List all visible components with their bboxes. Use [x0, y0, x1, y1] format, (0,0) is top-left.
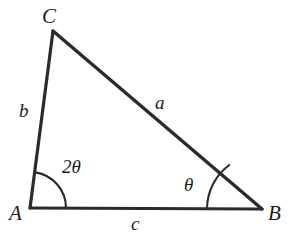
angle-arc-A: [35, 172, 66, 208]
triangle-side-b: [30, 31, 53, 208]
triangle-diagram-canvas: [0, 0, 292, 238]
vertex-label-a: A: [9, 203, 22, 224]
side-label-a: a: [155, 93, 165, 112]
vertex-label-c: C: [42, 6, 56, 27]
geometry-figure: C A B b a c 2θ θ: [0, 0, 292, 238]
angle-label-theta: θ: [184, 175, 193, 194]
triangle-side-c: [30, 208, 262, 209]
side-label-c: c: [131, 214, 139, 233]
side-label-b: b: [19, 101, 29, 120]
angle-label-two-theta: 2θ: [62, 157, 81, 176]
vertex-label-b: B: [268, 203, 281, 224]
triangle-side-a: [53, 31, 262, 209]
